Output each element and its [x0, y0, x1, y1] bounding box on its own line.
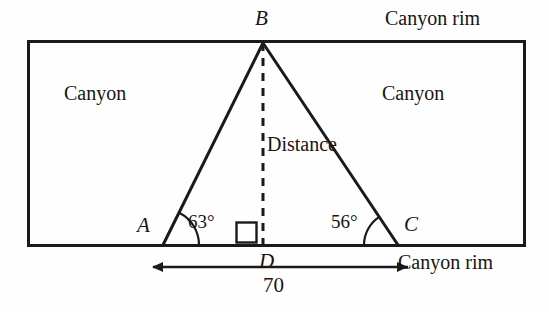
- vertex-label-a: A: [137, 215, 150, 236]
- vertex-label-c: C: [404, 214, 418, 235]
- label-canyon-rim-bottom: Canyon rim: [398, 252, 493, 272]
- vertex-label-d: D: [259, 251, 274, 272]
- angle-label-c: 56°: [331, 212, 358, 231]
- dimension-label-base: 70: [263, 275, 284, 296]
- right-angle-marker-d: [237, 223, 257, 243]
- label-distance: Distance: [267, 134, 337, 154]
- label-canyon-right: Canyon: [382, 83, 444, 103]
- figure-canvas: Canyon rim Canyon Canyon Distance B A C …: [0, 0, 549, 312]
- label-canyon-left: Canyon: [64, 83, 126, 103]
- vertex-label-b: B: [255, 8, 268, 29]
- angle-label-a: 63°: [188, 212, 215, 231]
- angle-arc-c: [364, 217, 379, 245]
- label-canyon-rim-top: Canyon rim: [385, 8, 480, 28]
